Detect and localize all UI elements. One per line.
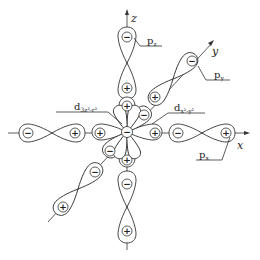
dx2y2-upper-minus-sign: − (140, 110, 148, 120)
px-left-plus-sign: + (71, 128, 79, 138)
dx2y2-leader (152, 113, 205, 124)
pz-lobe-plus (118, 63, 136, 99)
pz-bottom-minus-sign: − (123, 179, 131, 189)
z-axis-arrow (125, 9, 129, 15)
orbital-overlap-diagram: − + + − + − + − + + + − + − + (0, 0, 260, 260)
leader-lines (56, 38, 230, 160)
pz-top-minus-sign: − (123, 32, 131, 42)
z-axis-label: z (130, 12, 137, 25)
dz2-down-plus-sign: + (123, 155, 131, 165)
dx2y2-lower-minus-sign: − (106, 146, 114, 156)
x-axis-label: x (237, 139, 244, 152)
px-label: px (199, 149, 209, 161)
py-lower-minus-sign: − (91, 167, 99, 177)
y-axis-label: y (211, 45, 219, 58)
dz2-up-plus-sign: + (123, 101, 131, 111)
pz-top-plus-sign: + (123, 83, 131, 93)
px-left-minus-sign: − (24, 128, 32, 138)
d-left-plus-sign: + (96, 128, 104, 138)
pz-label: pz (147, 35, 157, 47)
pz-bottom-plus-sign: + (123, 226, 131, 236)
pz-bottom-lobe-plus (118, 207, 136, 243)
d-right-plus-sign: + (151, 128, 159, 138)
dz2-leader (56, 112, 122, 124)
px-right-plus-sign: + (222, 128, 230, 138)
py-lower-plus-sign: + (59, 202, 67, 212)
py-upper-minus-sign: − (188, 56, 196, 66)
center-minus-sign: − (123, 127, 131, 137)
py-upper-plus-sign: + (151, 92, 159, 102)
x-axis-arrow (244, 131, 250, 135)
px-right-minus-sign: − (174, 128, 182, 138)
dz2-label: d3z²-r² (74, 101, 98, 113)
